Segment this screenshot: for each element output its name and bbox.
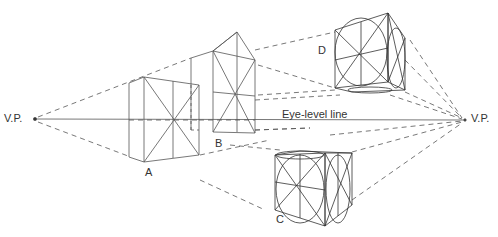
vp-left-point [33,117,36,120]
eye-level-label: Eye-level line [282,109,347,120]
perspective-diagram [0,0,498,237]
box-c [275,151,352,226]
box-d-label: D [318,45,326,56]
vp-left-label: V.P. [4,113,22,124]
box-c-label: C [276,214,284,225]
left-vp-guides [38,32,335,210]
box-d [335,13,405,93]
box-b-label: B [215,138,222,149]
eye-level-line [35,119,465,120]
vp-right-point [464,119,466,121]
box-b [191,32,255,133]
vp-right-label: V.P. [471,113,489,124]
box-a-label: A [145,167,152,178]
